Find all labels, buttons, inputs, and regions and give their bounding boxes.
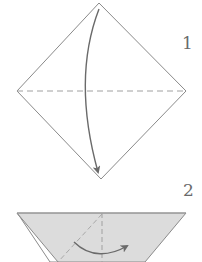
step-1-diagram bbox=[17, 3, 186, 179]
origami-diagram: 1 2 bbox=[0, 0, 202, 262]
step-number-2: 2 bbox=[183, 182, 194, 199]
step-2-diagram bbox=[17, 213, 186, 262]
diagram-canvas bbox=[0, 0, 202, 262]
step-number-1: 1 bbox=[182, 35, 193, 52]
